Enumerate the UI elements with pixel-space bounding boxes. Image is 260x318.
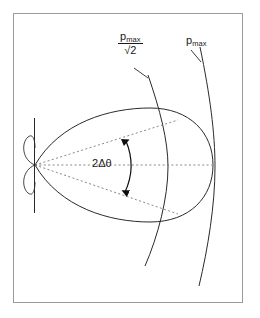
half-power-denominator-value: 2 [130, 44, 136, 56]
beamwidth-label: 2Δθ [92, 158, 112, 169]
beamwidth-theta-icon: θ [105, 157, 111, 169]
max-pressure-subscript: max [192, 39, 206, 48]
half-power-numerator-subscript: max [126, 35, 140, 44]
figure-border-rectangle [14, 14, 243, 303]
half-power-numerator: pmax [118, 31, 143, 44]
half-power-denominator: √2 [118, 44, 143, 56]
max-pressure-label: pmax [186, 35, 207, 46]
figure-root: pmax √2 pmax 2Δθ [0, 0, 260, 318]
half-power-pressure-label: pmax √2 [118, 31, 143, 56]
